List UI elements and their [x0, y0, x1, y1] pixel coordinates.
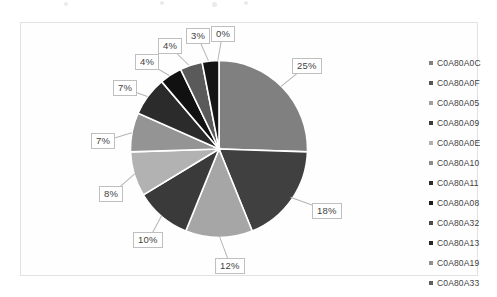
data-label[interactable]: 12%	[215, 258, 245, 274]
legend-item[interactable]: C0A80A09	[429, 113, 497, 133]
data-label[interactable]: 4%	[158, 38, 182, 54]
legend-swatch-icon	[429, 221, 433, 225]
legend-item[interactable]: C0A80A10	[429, 153, 497, 173]
legend-swatch-icon	[429, 81, 433, 85]
legend-label: C0A80A0E	[437, 138, 480, 148]
legend-swatch-icon	[429, 141, 433, 145]
legend-item[interactable]: C0A80A0C	[429, 53, 497, 73]
legend-swatch-icon	[429, 101, 433, 105]
scan-speck	[160, 1, 164, 5]
legend-swatch-icon	[429, 261, 433, 265]
data-label[interactable]: 0%	[211, 26, 235, 42]
chart-page: C0A80A0C C0A80A0F C0A80A05 C0A80A09 C0A8…	[0, 0, 497, 297]
scan-artifact-strip	[0, 0, 497, 18]
legend-swatch-icon	[429, 241, 433, 245]
legend-swatch-icon	[429, 61, 433, 65]
legend-item[interactable]: C0A80A0F	[429, 73, 497, 93]
data-label[interactable]: 25%	[292, 58, 322, 74]
data-label[interactable]: 4%	[135, 54, 159, 70]
legend-label: C0A80A0F	[437, 78, 480, 88]
legend-label: C0A80A0C	[437, 58, 481, 68]
legend-item[interactable]: C0A80A32	[429, 213, 497, 233]
legend-label: C0A80A10	[437, 158, 479, 168]
data-label[interactable]: 3%	[186, 28, 210, 44]
legend-item[interactable]: C0A80A05	[429, 93, 497, 113]
legend-item[interactable]: C0A80A33	[429, 273, 497, 293]
chart-legend: C0A80A0C C0A80A0F C0A80A05 C0A80A09 C0A8…	[429, 53, 497, 293]
legend-item[interactable]: C0A80A08	[429, 193, 497, 213]
legend-swatch-icon	[429, 281, 433, 285]
legend-item[interactable]: C0A80A0E	[429, 133, 497, 153]
legend-swatch-icon	[429, 201, 433, 205]
data-label[interactable]: 8%	[99, 186, 123, 202]
legend-label: C0A80A08	[437, 198, 479, 208]
data-label[interactable]: 7%	[91, 133, 115, 149]
legend-label: C0A80A32	[437, 218, 479, 228]
data-label[interactable]: 18%	[312, 203, 342, 219]
scan-speck	[64, 2, 68, 6]
chart-frame: C0A80A0C C0A80A0F C0A80A05 C0A80A09 C0A8…	[20, 22, 478, 276]
legend-label: C0A80A19	[437, 258, 479, 268]
legend-label: C0A80A33	[437, 278, 479, 288]
legend-swatch-icon	[429, 181, 433, 185]
legend-label: C0A80A11	[437, 178, 479, 188]
legend-item[interactable]: C0A80A19	[429, 253, 497, 273]
scan-speck	[244, 1, 248, 5]
data-label[interactable]: 10%	[133, 232, 163, 248]
legend-label: C0A80A09	[437, 118, 479, 128]
legend-label: C0A80A05	[437, 98, 479, 108]
legend-swatch-icon	[429, 121, 433, 125]
legend-item[interactable]: C0A80A11	[429, 173, 497, 193]
scan-speck	[212, 2, 217, 7]
legend-item[interactable]: C0A80A13	[429, 233, 497, 253]
legend-label: C0A80A13	[437, 238, 479, 248]
legend-swatch-icon	[429, 161, 433, 165]
data-label[interactable]: 7%	[113, 80, 137, 96]
